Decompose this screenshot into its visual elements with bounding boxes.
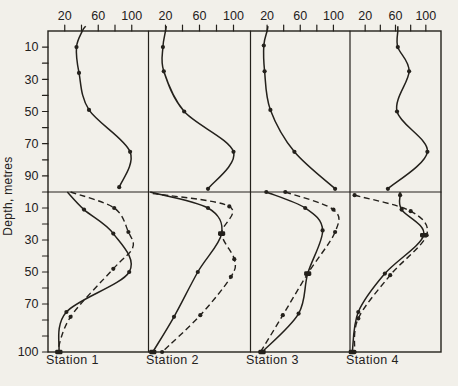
data-point — [87, 108, 91, 112]
x-axis-tick-label: 20 — [358, 9, 372, 23]
data-point — [229, 275, 233, 279]
data-point — [321, 228, 325, 232]
x-axis-tick-label: 60 — [389, 9, 403, 23]
data-point — [297, 312, 301, 316]
data-point — [232, 257, 236, 261]
data-point — [262, 43, 266, 47]
depth-tick-label: 70 — [25, 297, 39, 311]
depth-axis-label: Depth, metres — [1, 156, 15, 235]
depth-profile-figure: 2060100206010020601002060100103050709010… — [0, 0, 458, 386]
data-point — [128, 150, 132, 154]
data-point — [111, 232, 115, 236]
data-point — [263, 69, 267, 73]
data-point — [383, 272, 387, 276]
depth-profile-figure-page: 2060100206010020601002060100103050709010… — [0, 0, 458, 386]
data-point — [227, 204, 231, 208]
depth-tick-label: 50 — [25, 105, 39, 119]
data-point — [353, 193, 357, 197]
data-point — [264, 190, 268, 194]
x-axis-tick-label: 100 — [415, 9, 436, 23]
depth-tick-label: 30 — [25, 233, 39, 247]
depth-tick-label: 10 — [25, 201, 39, 215]
data-point — [331, 208, 335, 212]
data-point — [82, 208, 86, 212]
data-point — [303, 206, 307, 210]
data-point — [112, 206, 116, 210]
data-point — [292, 150, 296, 154]
depth-tick-label: 10 — [25, 40, 39, 54]
x-axis-tick-label: 20 — [58, 9, 72, 23]
depth-tick-label: 90 — [25, 169, 39, 183]
data-point — [356, 310, 360, 314]
x-axis-tick-label: 100 — [323, 9, 344, 23]
x-axis-tick-label: 60 — [293, 9, 307, 23]
data-point — [333, 187, 337, 191]
data-point — [69, 315, 73, 319]
x-axis-tick-label: 20 — [260, 9, 274, 23]
data-point — [396, 45, 400, 49]
data-point — [220, 232, 224, 236]
data-point — [206, 206, 210, 210]
depth-tick-label: 70 — [25, 137, 39, 151]
x-axis-tick-label: 100 — [121, 9, 142, 23]
x-axis-tick-label: 100 — [223, 9, 244, 23]
data-point — [182, 109, 186, 113]
data-point — [356, 316, 360, 320]
data-point — [111, 267, 115, 271]
data-point — [77, 71, 81, 75]
data-point — [117, 185, 121, 189]
data-point — [281, 313, 285, 317]
station-3-label: Station 3 — [246, 353, 299, 367]
data-point — [231, 150, 235, 154]
data-point — [196, 270, 200, 274]
data-point — [127, 270, 131, 274]
data-point — [425, 233, 429, 237]
data-point — [161, 45, 165, 49]
data-point — [306, 272, 310, 276]
data-point — [74, 45, 78, 49]
data-point — [198, 313, 202, 317]
data-point — [386, 187, 390, 191]
data-point — [126, 230, 130, 234]
x-axis-tick-label: 60 — [91, 9, 105, 23]
data-point — [333, 230, 337, 234]
data-point — [407, 69, 411, 73]
data-point — [268, 108, 272, 112]
data-point — [398, 193, 402, 197]
station-4-label: Station 4 — [346, 353, 399, 367]
station-2-label: Station 2 — [146, 353, 199, 367]
data-point — [206, 187, 210, 191]
data-point — [425, 150, 429, 154]
depth-tick-label: 50 — [25, 265, 39, 279]
data-point — [64, 310, 68, 314]
x-axis-tick-label: 20 — [159, 9, 173, 23]
depth-tick-label: 100 — [18, 345, 39, 359]
data-point — [283, 190, 287, 194]
x-axis-tick-label: 60 — [193, 9, 207, 23]
data-point — [388, 273, 392, 277]
data-point — [162, 69, 166, 73]
station-1-label: Station 1 — [46, 353, 99, 367]
data-point — [409, 209, 413, 213]
data-point — [172, 315, 176, 319]
data-point — [395, 109, 399, 113]
depth-tick-label: 30 — [25, 73, 39, 87]
